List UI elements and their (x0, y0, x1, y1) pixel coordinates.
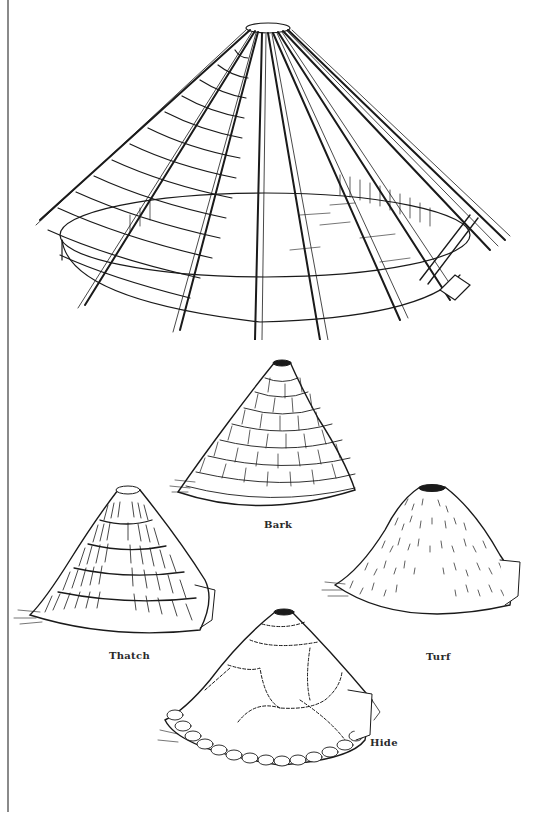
thatch-label: Thatch (109, 650, 150, 661)
bark-label: Bark (264, 519, 292, 530)
turf-label: Turf (426, 651, 451, 662)
roundhouse-frame-illustration (0, 0, 541, 340)
hide-label: Hide (370, 737, 398, 748)
